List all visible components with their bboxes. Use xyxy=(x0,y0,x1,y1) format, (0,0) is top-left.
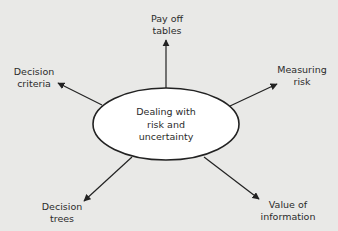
center-line-2: risk and xyxy=(136,119,196,132)
branch-payoff-line-1: Pay off xyxy=(151,13,183,25)
arrow-up-left xyxy=(58,83,102,105)
branch-value-line-2: information xyxy=(261,211,316,223)
branch-criteria-line-1: Decision xyxy=(14,66,54,78)
branch-decision-trees: Decision trees xyxy=(42,201,82,225)
branch-measuring-risk: Measuring risk xyxy=(277,64,326,88)
branch-criteria-line-2: criteria xyxy=(14,78,54,90)
arrow-up-right xyxy=(230,84,277,106)
branch-payoff-line-2: tables xyxy=(151,25,183,37)
center-node-label: Dealing with risk and uncertainty xyxy=(136,106,196,144)
branch-trees-line-2: trees xyxy=(42,213,82,225)
branch-trees-line-1: Decision xyxy=(42,201,82,213)
branch-value-line-1: Value of xyxy=(261,199,316,211)
center-line-3: uncertainty xyxy=(136,131,196,144)
branch-measuring-line-2: risk xyxy=(277,76,326,88)
mind-map-diagram: Dealing with risk and uncertainty Pay of… xyxy=(0,0,338,231)
branch-decision-criteria: Decision criteria xyxy=(14,66,54,90)
branch-measuring-line-1: Measuring xyxy=(277,64,326,76)
branch-value-of-information: Value of information xyxy=(261,199,316,223)
arrow-down-left xyxy=(84,157,132,201)
center-line-1: Dealing with xyxy=(136,106,196,119)
arrow-down-right xyxy=(204,157,259,199)
branch-payoff-tables: Pay off tables xyxy=(151,13,183,37)
